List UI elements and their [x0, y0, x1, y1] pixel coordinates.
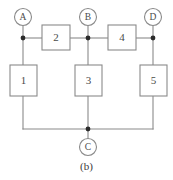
branch-box-3-label: 3: [86, 74, 92, 86]
figure-caption: (b): [0, 160, 173, 172]
terminal-label-d: D: [150, 12, 157, 22]
junction-dot-c: [86, 127, 91, 132]
circuit-diagram-canvas: 1 2 3 4 5 A B D C: [0, 0, 173, 180]
junction-dot-d: [151, 36, 156, 41]
branch-box-1-label: 1: [21, 74, 27, 86]
terminal-label-c: C: [85, 142, 91, 152]
terminal-label-b: B: [85, 12, 91, 22]
terminal-label-a: A: [20, 12, 27, 22]
branch-box-5-label: 5: [151, 74, 157, 86]
circuit-diagram-figure: 1 2 3 4 5 A B D C (b): [0, 0, 173, 180]
junction-dot-b: [86, 36, 91, 41]
junction-dot-a: [21, 36, 26, 41]
branch-box-4-label: 4: [119, 31, 125, 43]
branch-box-2-label: 2: [53, 31, 59, 43]
